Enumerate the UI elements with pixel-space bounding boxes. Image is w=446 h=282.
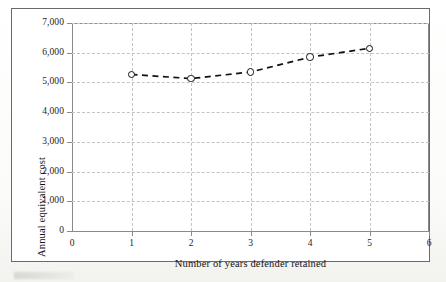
y-tick-label: 6,000 bbox=[12, 47, 64, 57]
x-tick-label: 2 bbox=[179, 238, 203, 248]
figure-page: 01,0002,0003,0004,0005,0006,0007,000 012… bbox=[0, 0, 446, 282]
y-tick-label: 4,000 bbox=[12, 106, 64, 116]
x-tick-label: 6 bbox=[417, 238, 441, 248]
x-tick bbox=[132, 231, 133, 236]
x-tick bbox=[251, 231, 252, 236]
y-tick-label: 5,000 bbox=[12, 76, 64, 86]
x-tick-label: 4 bbox=[298, 238, 322, 248]
x-tick bbox=[310, 231, 311, 236]
data-point-marker bbox=[187, 75, 195, 83]
x-tick bbox=[370, 231, 371, 236]
y-tick-label: 7,000 bbox=[12, 17, 64, 27]
y-tick bbox=[67, 231, 72, 232]
y-axis-title: Annual equivalent cost bbox=[36, 117, 47, 257]
x-tick-label: 1 bbox=[120, 238, 144, 248]
x-axis-title: Number of years defender retained bbox=[72, 258, 429, 269]
x-tick bbox=[191, 231, 192, 236]
figure-frame: 01,0002,0003,0004,0005,0006,0007,000 012… bbox=[11, 8, 430, 262]
caption-smudge bbox=[14, 272, 74, 279]
data-point-marker bbox=[306, 53, 314, 61]
x-tick-label: 0 bbox=[60, 238, 84, 248]
data-point-marker bbox=[247, 68, 255, 76]
x-tick-label: 5 bbox=[358, 238, 382, 248]
series-line bbox=[72, 23, 429, 231]
x-tick-label: 3 bbox=[239, 238, 263, 248]
x-tick bbox=[429, 231, 430, 236]
plot-area bbox=[72, 23, 429, 231]
